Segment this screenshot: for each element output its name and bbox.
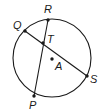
label-r: R xyxy=(44,3,52,15)
label-q: Q xyxy=(13,19,22,31)
label-p: P xyxy=(29,99,37,111)
label-a: A xyxy=(54,60,62,72)
chords xyxy=(25,20,87,96)
point-r xyxy=(46,18,49,21)
point-t xyxy=(41,41,44,44)
point-p xyxy=(32,94,35,97)
label-t: T xyxy=(47,33,55,45)
point-q xyxy=(23,29,26,32)
point-a xyxy=(50,57,53,60)
chord-rp xyxy=(34,20,48,96)
point-s xyxy=(85,74,88,77)
label-s: S xyxy=(90,73,98,85)
circle-chord-diagram: QRTASP xyxy=(0,0,99,111)
